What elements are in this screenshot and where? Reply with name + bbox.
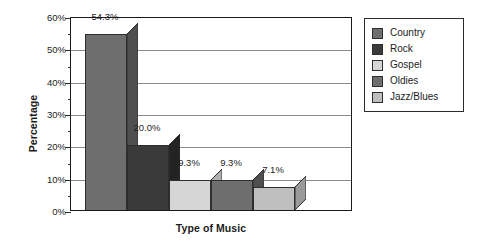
bar[interactable]	[253, 176, 306, 210]
legend: CountryRockGospelOldiesJazz/Blues	[364, 18, 464, 112]
legend-item[interactable]: Gospel	[372, 57, 458, 73]
bar-front-face	[169, 180, 211, 210]
legend-item-label: Gospel	[390, 60, 422, 70]
bar-front-face	[127, 145, 169, 210]
legend-item-label: Oldies	[390, 76, 418, 86]
y-axis-major-tick	[65, 18, 71, 19]
y-axis-tick-label: 60%	[32, 12, 66, 23]
y-axis-minor-tick	[68, 34, 72, 35]
legend-item[interactable]: Country	[372, 25, 458, 41]
bar-value-label: 7.1%	[262, 164, 284, 175]
y-axis-tick-labels: 0%10%20%30%40%50%60%	[32, 17, 66, 211]
y-axis-major-tick	[65, 180, 71, 181]
y-axis-major-tick	[65, 50, 71, 51]
y-axis-major-tick	[65, 115, 71, 116]
legend-swatch	[372, 28, 383, 39]
y-axis-minor-tick	[68, 99, 72, 100]
bar-value-label: 9.3%	[178, 157, 200, 168]
legend-item-label: Country	[390, 28, 425, 38]
legend-item-label: Jazz/Blues	[390, 92, 438, 102]
legend-item-label: Rock	[390, 44, 413, 54]
y-axis-tick-label: 0%	[32, 206, 66, 217]
bar-front-face	[253, 187, 295, 210]
y-axis-tick-label: 50%	[32, 44, 66, 55]
bar-value-label: 9.3%	[220, 157, 242, 168]
y-axis-minor-tick	[68, 196, 72, 197]
bar-chart: Percentage 0%10%20%30%40%50%60% 54.3%20.…	[0, 0, 482, 247]
bar-front-face	[211, 180, 253, 210]
bar-value-label: 54.3%	[92, 11, 119, 22]
legend-item[interactable]: Rock	[372, 41, 458, 57]
x-axis-title: Type of Music	[70, 222, 352, 234]
y-axis-tick-label: 40%	[32, 76, 66, 87]
legend-item[interactable]: Jazz/Blues	[372, 89, 458, 105]
bars-layer	[71, 18, 351, 210]
legend-item[interactable]: Oldies	[372, 73, 458, 89]
legend-swatch	[372, 60, 383, 71]
y-axis-major-tick	[65, 147, 71, 148]
y-axis-minor-tick	[68, 131, 72, 132]
legend-swatch	[372, 76, 383, 87]
y-axis-minor-tick	[68, 67, 72, 68]
plot-inner	[71, 18, 351, 210]
legend-swatch	[372, 92, 383, 103]
bar-value-label: 20.0%	[134, 122, 161, 133]
y-axis-tick-label: 10%	[32, 173, 66, 184]
legend-swatch	[372, 44, 383, 55]
y-axis-tick-label: 20%	[32, 141, 66, 152]
y-axis-minor-tick	[68, 164, 72, 165]
y-axis-major-tick	[65, 83, 71, 84]
y-axis-tick-label: 30%	[32, 109, 66, 120]
bar-front-face	[85, 34, 127, 210]
legend-items: CountryRockGospelOldiesJazz/Blues	[372, 25, 458, 105]
y-axis-major-tick	[65, 212, 71, 213]
plot-area	[70, 17, 352, 211]
